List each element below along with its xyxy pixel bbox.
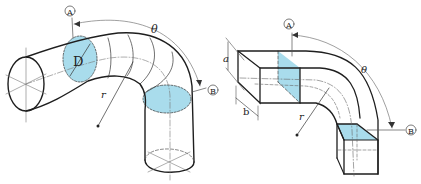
rect-section-a-fill [278, 51, 300, 103]
diameter-label: D [73, 54, 83, 69]
rect-angle-label: θ [361, 64, 367, 75]
rect-width-label: b [243, 106, 249, 117]
round-radius-label: r [101, 89, 107, 100]
round-angle-label: θ [151, 23, 158, 36]
rect-section-a-label: A [285, 21, 292, 30]
rect-radius-label: r [299, 111, 305, 122]
rect-duct-bend: a b r θ A B [223, 19, 416, 176]
rect-section-b-label: B [408, 127, 414, 136]
rect-height-label: a [223, 53, 229, 64]
round-section-a-label: A [66, 8, 73, 17]
round-pipe-bend: D r θ A B [6, 6, 218, 180]
round-section-b-fill [143, 85, 191, 113]
round-section-b-label: B [210, 87, 216, 96]
pipe-bend-diagram: D r θ A B [0, 0, 421, 184]
